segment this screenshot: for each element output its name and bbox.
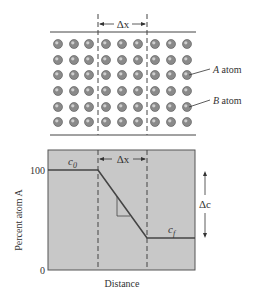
atom (167, 103, 176, 112)
atom (134, 71, 143, 80)
atom (70, 118, 79, 127)
atom (151, 118, 160, 127)
atom (118, 103, 127, 112)
atom (102, 56, 111, 65)
atom (85, 103, 94, 112)
atom (134, 40, 143, 49)
atom (151, 56, 160, 65)
atom (54, 87, 63, 96)
atom (151, 71, 160, 80)
atom (134, 56, 143, 65)
atom (167, 87, 176, 96)
y-axis-label: Percent atom A (13, 188, 24, 250)
atom (134, 103, 143, 112)
atom (134, 118, 143, 127)
atom (102, 40, 111, 49)
delta-c-label: Δc (199, 198, 211, 210)
atom (167, 56, 176, 65)
atom (167, 40, 176, 49)
atom (183, 118, 192, 127)
atom (54, 56, 63, 65)
atom (70, 71, 79, 80)
lattice-delta-x-arrow: Δx (99, 18, 146, 30)
atom (70, 103, 79, 112)
x-axis-label: Distance (105, 278, 141, 289)
atom (151, 103, 160, 112)
atom (118, 40, 127, 49)
a-atom-callout: A atom (189, 64, 242, 75)
a-atom-letter: A (212, 64, 220, 75)
atom (85, 118, 94, 127)
atom (167, 118, 176, 127)
atom (54, 71, 63, 80)
atom (102, 103, 111, 112)
b-atom-callout: B atom (189, 95, 242, 107)
atom (134, 87, 143, 96)
atom (102, 87, 111, 96)
atom (85, 56, 94, 65)
atom (102, 118, 111, 127)
atom (118, 118, 127, 127)
graph-delta-x-label: Δx (117, 153, 130, 165)
atom (118, 71, 127, 80)
y-tick-0: 0 (40, 265, 45, 276)
atom (151, 87, 160, 96)
atom (70, 87, 79, 96)
atom (183, 40, 192, 49)
atom (70, 56, 79, 65)
lattice-delta-x-label: Δx (117, 18, 130, 30)
b-atom-label: atom (222, 95, 242, 106)
atom (151, 40, 160, 49)
atom (102, 71, 111, 80)
atom (183, 87, 192, 96)
svg-text:A atom: A atom (212, 64, 242, 75)
atom (70, 40, 79, 49)
atom (85, 71, 94, 80)
concentration-graph: Δx c0 cf Δc 100 0 Percent atom A Distanc… (13, 150, 211, 289)
atom (85, 40, 94, 49)
atoms (54, 40, 192, 127)
atom (118, 56, 127, 65)
atom (54, 103, 63, 112)
graph-area (48, 150, 195, 270)
y-tick-100: 100 (30, 165, 45, 176)
b-atom-letter: B (213, 95, 219, 106)
delta-c-arrow: Δc (199, 171, 211, 238)
atom (118, 87, 127, 96)
atom (54, 40, 63, 49)
atom (85, 87, 94, 96)
diffusion-diagram: Δx A atom B atom Δx c0 cf (0, 0, 256, 299)
atom (167, 71, 176, 80)
atom (183, 56, 192, 65)
atom-lattice: Δx A atom B atom (50, 14, 242, 135)
a-atom-label: atom (222, 64, 242, 75)
svg-text:B atom: B atom (213, 95, 242, 106)
atom (54, 118, 63, 127)
